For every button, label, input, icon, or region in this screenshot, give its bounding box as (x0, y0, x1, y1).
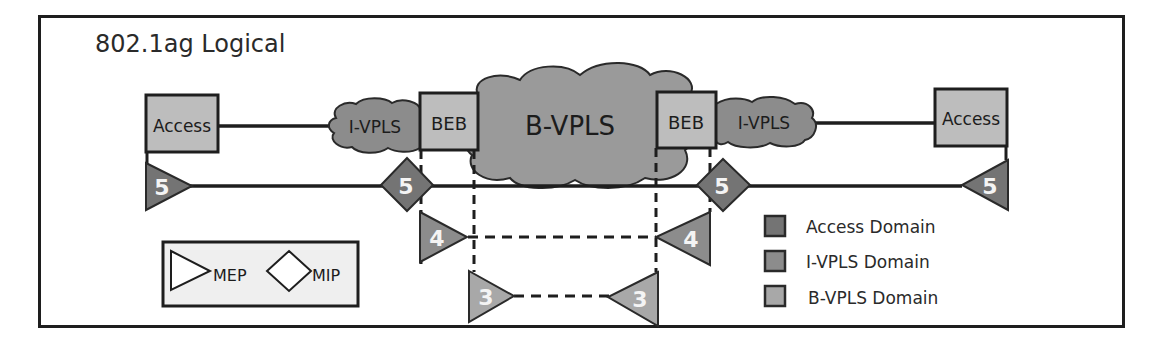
mip-key-label: MIP (312, 266, 341, 285)
shape-key: MEP MIP (163, 242, 358, 306)
mep-left-level5-label: 5 (154, 175, 169, 200)
legend-label-access-domain: Access Domain (806, 217, 936, 237)
mep-right-level4-label: 4 (683, 227, 698, 252)
ivpls-right-label: I-VPLS (738, 113, 790, 133)
beb-right-label: BEB (668, 112, 704, 133)
diagram-canvas: 802.1ag Logical B-VPLS I-VPLS I-VPLS Acc… (0, 0, 1159, 347)
legend-swatch-bvpls-domain (765, 286, 785, 306)
legend-label-bvpls-domain: B-VPLS Domain (808, 288, 938, 308)
mip-right-level5-label: 5 (714, 174, 729, 199)
mip-left-level5-label: 5 (398, 174, 413, 199)
mep-left-level4-label: 4 (429, 226, 444, 251)
domain-legend: Access Domain I-VPLS Domain B-VPLS Domai… (765, 216, 938, 308)
bvpls-label: B-VPLS (525, 111, 615, 141)
beb-left-label: BEB (431, 113, 467, 134)
legend-label-ivpls-domain: I-VPLS Domain (806, 252, 930, 272)
legend-swatch-access-domain (765, 216, 785, 236)
mep-right-level3-label: 3 (632, 287, 647, 312)
ivpls-left-label: I-VPLS (349, 117, 401, 137)
mep-left-level3-label: 3 (478, 285, 493, 310)
diagram-svg: B-VPLS I-VPLS I-VPLS Access Access BEB B… (0, 0, 1159, 347)
mep-right-level5-label: 5 (982, 174, 997, 199)
mep-key-label: MEP (213, 266, 247, 285)
access-left-label: Access (153, 116, 211, 136)
legend-swatch-ivpls-domain (765, 251, 785, 271)
access-right-label: Access (942, 109, 1000, 129)
